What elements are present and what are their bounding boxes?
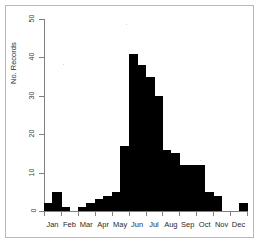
x-tick-mark	[44, 211, 45, 216]
histogram-bar	[239, 203, 248, 211]
speck-decoration	[200, 160, 201, 161]
x-tick-mark	[78, 211, 79, 216]
x-tick-label-dec: Dec	[232, 220, 245, 229]
x-tick-mark	[162, 211, 163, 216]
x-tick-mark	[129, 211, 130, 216]
histogram-bar	[213, 196, 222, 211]
x-tick-mark	[112, 211, 113, 216]
x-tick-label-feb: Feb	[63, 220, 76, 229]
x-tick-mark	[247, 211, 248, 216]
y-tick-label: 30	[0, 92, 36, 99]
speck-decoration	[63, 64, 64, 65]
y-tick-label: 10	[0, 169, 36, 176]
x-tick-label-aug: Aug	[164, 220, 177, 229]
speck-decoration	[126, 24, 127, 25]
x-tick-label-jan: Jan	[46, 220, 58, 229]
x-tick-label-mar: Mar	[80, 220, 93, 229]
y-tick-label: 40	[0, 53, 36, 60]
y-tick-label: 0	[0, 207, 36, 214]
x-tick-mark	[61, 211, 62, 216]
x-tick-mark	[146, 211, 147, 216]
bar-series	[44, 19, 247, 211]
x-tick-label-sep: Sep	[181, 220, 194, 229]
x-tick-label-jun: Jun	[131, 220, 143, 229]
x-tick-label-may: May	[113, 220, 127, 229]
y-tick-label: 50	[0, 15, 36, 22]
x-tick-mark	[213, 211, 214, 216]
y-tick-label: 20	[0, 130, 36, 137]
x-tick-mark	[179, 211, 180, 216]
x-tick-label-nov: Nov	[215, 220, 228, 229]
x-tick-label-oct: Oct	[199, 220, 211, 229]
x-tick-label-apr: Apr	[97, 220, 109, 229]
histogram-figure: No. Records 50403020100 JanFebMarAprMayJ…	[0, 0, 259, 243]
histogram-bar	[61, 207, 70, 211]
x-tick-label-jul: Jul	[149, 220, 159, 229]
x-tick-mark	[95, 211, 96, 216]
y-axis-title: No. Records	[9, 42, 18, 84]
x-tick-mark	[196, 211, 197, 216]
x-tick-mark	[230, 211, 231, 216]
